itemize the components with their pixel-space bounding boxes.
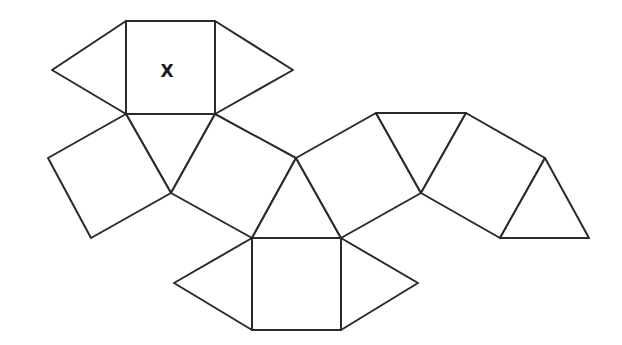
top-left-triangle-face <box>52 21 126 114</box>
bottom-left-triangle-face <box>174 238 252 330</box>
bottom-right-triangle-face <box>341 238 418 330</box>
top-right-triangle-face <box>215 21 293 114</box>
face-label-x: X <box>160 61 173 81</box>
polyhedron-net-diagram: X <box>0 0 622 345</box>
bottom-square-face <box>252 238 341 330</box>
net-faces <box>48 21 589 330</box>
